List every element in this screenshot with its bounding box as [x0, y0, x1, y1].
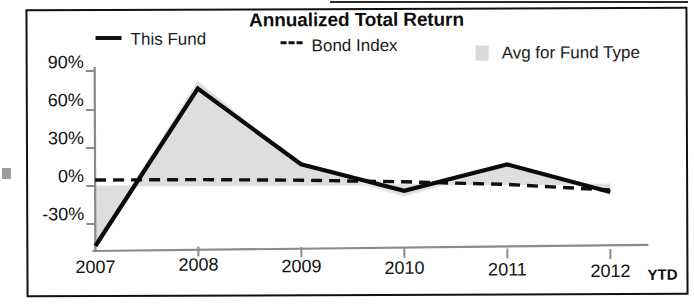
plot-area: 90% 60% 30% 0% -30% 2007 2008 2009 2010 …	[25, 7, 688, 298]
x-axis-line	[92, 245, 648, 251]
chart-content: Annualized Total Return This Fund Bond I…	[25, 7, 688, 298]
chart-plot-svg	[25, 7, 688, 298]
scan-artifact-mark	[2, 168, 11, 179]
avg-fund-type-band	[95, 80, 611, 245]
fund-performance-chart: Annualized Total Return This Fund Bond I…	[0, 0, 694, 306]
scan-artifact-line	[330, 1, 688, 3]
